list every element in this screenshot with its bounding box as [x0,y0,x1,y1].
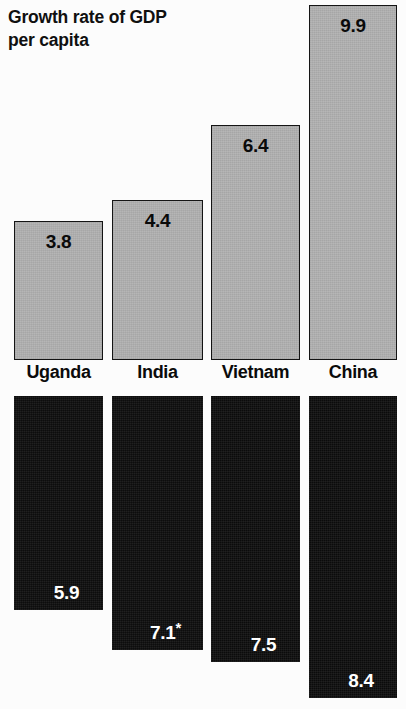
bar-value-label: 6.4 [212,135,299,157]
bar-value-label: 3.8 [15,231,102,253]
bar-value-label: 7.1* [120,619,211,644]
bar-value-label: 4.4 [113,210,202,232]
bar-upper-uganda: 3.8 [14,221,103,360]
bar-value-label: 5.9 [22,582,111,604]
bar-lower-china: 8.4 [309,396,397,698]
bar-chart-plot-area: 3.84.46.49.9UgandaIndiaVietnamChina5.97.… [0,0,406,709]
bar-value-label: 8.4 [317,670,405,692]
bar-upper-vietnam: 6.4 [211,125,300,360]
bar-lower-uganda: 5.9 [14,396,103,610]
category-label-uganda: Uganda [14,359,103,385]
bar-lower-india: 7.1* [112,396,203,650]
category-label-india: India [112,359,203,385]
footnote-asterisk: * [175,619,181,636]
bar-upper-india: 4.4 [112,200,203,360]
bar-lower-vietnam: 7.5 [211,396,300,662]
bar-value-label: 9.9 [310,15,396,37]
bar-value-label: 7.5 [219,634,308,656]
chart-page: Growth rate of GDP per capita 3.84.46.49… [0,0,406,709]
bar-upper-china: 9.9 [309,5,397,360]
category-label-china: China [309,359,397,385]
category-label-vietnam: Vietnam [205,359,306,385]
